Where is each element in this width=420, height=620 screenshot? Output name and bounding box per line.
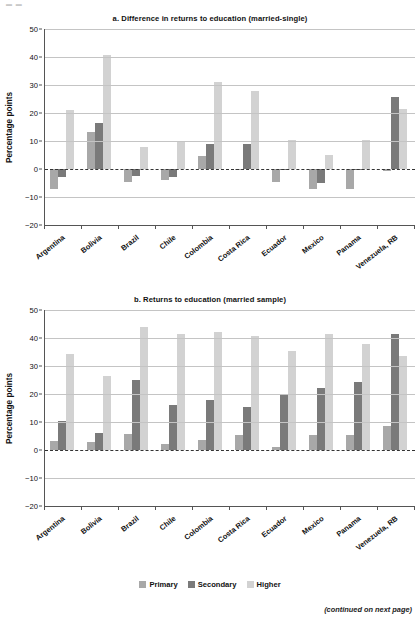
bar-higher: [140, 147, 148, 169]
chart-a-title: a. Difference in returns to education (m…: [0, 10, 420, 23]
bar-secondary: [132, 380, 140, 450]
chart-a-y-tick-label: 0: [14, 165, 38, 174]
x-label-cell: Venezuela, RB: [378, 512, 415, 560]
bar-higher: [103, 55, 111, 169]
chart-a-y-tick-label: 40: [14, 53, 38, 62]
chart-b-gridline: [45, 310, 415, 311]
bar-group: [45, 29, 82, 225]
x-label-cell: Argentina: [44, 231, 81, 279]
chart-b-y-tick-label: 50: [14, 306, 38, 315]
chart-legend: PrimarySecondaryHigher: [0, 580, 420, 589]
legend-swatch-secondary: [188, 581, 195, 588]
chart-a-y-tick-mark: [39, 197, 42, 198]
bar-higher: [251, 91, 259, 169]
chart-b-gridline: [45, 366, 415, 367]
chart-panel-b: b. Returns to education (married sample)…: [0, 292, 420, 582]
chart-a-plot: [44, 29, 415, 225]
page-header-mark: ▬ ▬: [6, 1, 23, 7]
bar-group: [267, 310, 304, 506]
chart-a-gridline: [45, 113, 415, 114]
chart-a-gridline: [45, 197, 415, 198]
chart-a-y-tick-mark: [39, 29, 42, 30]
chart-b-y-tick-mark: [39, 506, 42, 507]
chart-panel-a: a. Difference in returns to education (m…: [0, 10, 420, 295]
chart-b-y-tick-mark: [39, 450, 42, 451]
chart-a-y-tick-label: 30: [14, 81, 38, 90]
bar-primary: [198, 156, 206, 169]
chart-a-plot-area: Percentage points 50403020100−10−20 Arge…: [0, 29, 420, 225]
chart-a-gridline: [45, 141, 415, 142]
chart-a-bar-groups: [45, 29, 415, 225]
chart-b-gridline: [45, 478, 415, 479]
chart-a-gridline: [45, 29, 415, 30]
bar-primary: [87, 442, 95, 450]
bar-secondary: [58, 421, 66, 450]
bar-primary: [346, 169, 354, 189]
legend-label-primary: Primary: [149, 580, 177, 589]
bar-higher: [66, 354, 74, 450]
bar-primary: [50, 169, 58, 189]
chart-b-y-tick-mark: [39, 310, 42, 311]
bar-higher: [140, 327, 148, 450]
x-label-cell: Ecuador: [267, 231, 304, 279]
chart-b-plot: [44, 310, 415, 506]
bar-primary: [161, 169, 169, 180]
chart-b-y-tick-mark: [39, 366, 42, 367]
bar-primary: [309, 169, 317, 189]
chart-b-y-tick-label: 40: [14, 334, 38, 343]
bar-primary: [235, 435, 243, 450]
bar-group: [45, 310, 82, 506]
bar-higher: [66, 110, 74, 169]
x-label-cell: Mexico: [304, 231, 341, 279]
bar-secondary: [206, 144, 214, 169]
chart-a-gridline: [45, 85, 415, 86]
continued-footnote: (continued on next page): [324, 605, 412, 614]
bar-group: [193, 310, 230, 506]
x-label-cell: Bolivia: [81, 512, 118, 560]
chart-a-zero-line: [45, 169, 415, 170]
bar-group: [267, 29, 304, 225]
legend-label-higher: Higher: [257, 580, 281, 589]
chart-a-y-tick-label: 10: [14, 137, 38, 146]
bar-secondary: [206, 400, 214, 450]
chart-b-y-axis: 50403020100−10−20: [18, 310, 42, 506]
chart-b-zero-line: [45, 450, 415, 451]
bar-primary: [50, 441, 58, 450]
x-label-cell: Mexico: [304, 512, 341, 560]
legend-item-secondary: Secondary: [188, 580, 237, 589]
x-label-cell: Costa Rica: [229, 231, 266, 279]
chart-b-y-tick-label: −10: [14, 474, 38, 483]
bar-higher: [103, 376, 111, 450]
x-label-cell: Brazil: [118, 512, 155, 560]
chart-b-gridline: [45, 338, 415, 339]
bar-higher: [399, 109, 407, 169]
x-axis-category-text: Bolivia: [79, 514, 104, 536]
chart-a-y-tick-mark: [39, 169, 42, 170]
bar-higher: [251, 336, 259, 450]
bar-higher: [177, 334, 185, 450]
bar-higher: [399, 356, 407, 450]
bar-secondary: [95, 433, 103, 450]
chart-b-y-tick-mark: [39, 338, 42, 339]
bar-group: [156, 29, 193, 225]
bar-higher: [325, 334, 333, 450]
legend-swatch-primary: [139, 581, 146, 588]
bar-group: [119, 29, 156, 225]
x-axis-category-text: Mexico: [300, 233, 325, 256]
bar-secondary: [391, 334, 399, 450]
bar-higher: [288, 140, 296, 169]
x-label-cell: Argentina: [44, 512, 81, 560]
bar-group: [378, 310, 415, 506]
bar-group: [378, 29, 415, 225]
chart-b-bar-groups: [45, 310, 415, 506]
bar-group: [304, 310, 341, 506]
bar-group: [304, 29, 341, 225]
bar-secondary: [95, 123, 103, 169]
bar-secondary: [354, 382, 362, 450]
bar-primary: [198, 440, 206, 450]
bar-secondary: [243, 144, 251, 169]
chart-b-plot-area: Percentage points 50403020100−10−20 Arge…: [0, 310, 420, 506]
bar-higher: [362, 140, 370, 169]
bar-group: [119, 310, 156, 506]
chart-b-y-axis-label-text: Percentage points: [5, 373, 14, 444]
